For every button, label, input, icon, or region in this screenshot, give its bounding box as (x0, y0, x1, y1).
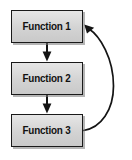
node-function-3[interactable]: Function 3 (11, 114, 83, 147)
node-function-2-label: Function 2 (23, 73, 71, 84)
node-function-1-label: Function 1 (23, 21, 71, 32)
edge-function2-to-function3 (43, 95, 52, 114)
node-function-1[interactable]: Function 1 (11, 10, 83, 43)
node-function-3-label: Function 3 (23, 125, 71, 136)
edge-function1-to-function2 (43, 43, 52, 62)
flowchart-diagram: Function 1 Function 2 Function 3 (0, 0, 132, 160)
node-function-2[interactable]: Function 2 (11, 62, 83, 95)
edge-function3-to-function1 (84, 25, 114, 131)
